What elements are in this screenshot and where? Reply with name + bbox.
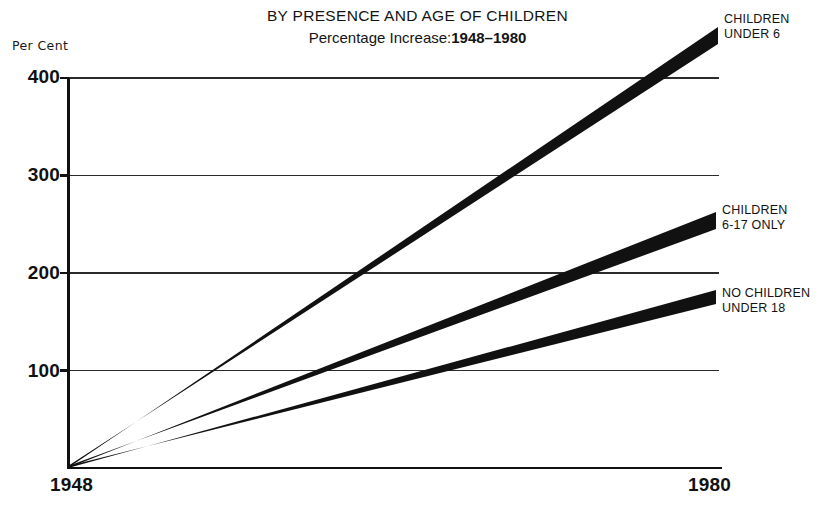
- series-label-children-under-6: CHILDREN UNDER 6: [724, 12, 790, 42]
- series-label-children-under-6-line1: CHILDREN: [724, 12, 790, 27]
- series-label-no-children-under-18: NO CHILDREN UNDER 18: [722, 286, 810, 316]
- series-band-no-children-under-18: [68, 290, 716, 468]
- plot-canvas: [0, 0, 835, 513]
- series-label-no-children-under-18-line1: NO CHILDREN: [722, 286, 810, 301]
- series-band-children-under-6: [68, 27, 718, 468]
- series-label-children-under-6-line2: UNDER 6: [724, 27, 790, 42]
- series-label-children-6-17-only: CHILDREN 6-17 ONLY: [722, 203, 788, 233]
- chart-figure: BY PRESENCE AND AGE OF CHILDREN Percenta…: [0, 0, 835, 513]
- series-label-children-6-17-only-line2: 6-17 ONLY: [722, 218, 788, 233]
- series-label-no-children-under-18-line2: UNDER 18: [722, 301, 810, 316]
- series-label-children-6-17-only-line1: CHILDREN: [722, 203, 788, 218]
